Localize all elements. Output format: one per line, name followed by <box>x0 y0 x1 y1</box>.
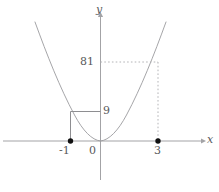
y-axis-label: y <box>96 4 102 15</box>
x-axis-arrow-icon <box>201 138 206 143</box>
point-marker-neg1 <box>68 138 73 143</box>
x-axis-label: x <box>207 134 213 145</box>
value-label-neg1: -1 <box>59 145 70 156</box>
origin-label: 0 <box>89 145 96 156</box>
graph-figure: y x 81 9 -1 3 0 <box>0 0 219 192</box>
guide-lines-dotted <box>101 62 159 141</box>
y-axis <box>98 12 103 180</box>
x-axis <box>3 138 206 143</box>
value-label-81: 81 <box>80 56 94 67</box>
coordinate-plot <box>0 0 219 192</box>
value-label-9: 9 <box>103 105 110 116</box>
value-label-3: 3 <box>154 145 161 156</box>
point-marker-3 <box>155 138 160 143</box>
